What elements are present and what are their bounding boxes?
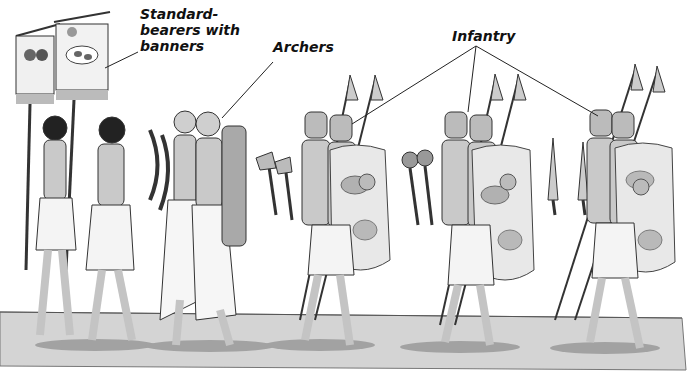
- label-archers: Archers: [273, 39, 334, 55]
- label-line: Infantry: [452, 28, 515, 44]
- label-standard-bearers: Standard- bearers with banners: [140, 6, 240, 54]
- procession-illustration: Standard- bearers with banners Archers I…: [0, 0, 689, 374]
- infantry-dagger-group: [548, 64, 675, 348]
- archer-figures: [150, 111, 246, 345]
- infantry-mace-group: [402, 74, 534, 345]
- label-infantry: Infantry: [452, 28, 515, 44]
- label-line: Standard-: [140, 6, 240, 22]
- infantry-axe-group: [256, 75, 390, 345]
- label-line: Archers: [273, 39, 334, 55]
- illustration-artwork: [0, 0, 689, 374]
- label-line: bearers with: [140, 22, 240, 38]
- standard-bearer-figures: [36, 116, 134, 340]
- label-line: banners: [140, 38, 240, 54]
